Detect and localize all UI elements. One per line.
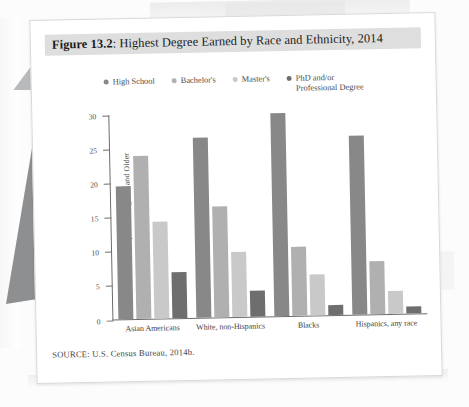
bar-group: White, non-Hispanics — [192, 112, 265, 317]
y-axis-tick-label: 20 — [78, 180, 98, 189]
figure-card: Figure 13.2: Highest Degree Earned by Ra… — [29, 12, 442, 384]
y-axis-tick-label: 5 — [80, 283, 100, 292]
legend-swatch-icon — [287, 76, 292, 81]
bar — [290, 246, 306, 316]
bar-group: Hispanics, any race — [348, 109, 421, 314]
bar-group: Asian Americans — [114, 114, 187, 319]
bar-chart-plot: Percent of Population Age 25 and Older 0… — [76, 109, 425, 321]
x-axis-category-label: White, non-Hispanics — [196, 321, 265, 331]
bar — [171, 272, 187, 318]
legend-swatch-icon — [233, 77, 238, 82]
legend-label: Bachelor's — [181, 75, 216, 86]
bar — [387, 291, 402, 314]
legend-label: Master's — [242, 74, 270, 85]
legend-label-line2: Professional Degree — [296, 83, 364, 93]
y-axis-tick — [106, 320, 113, 321]
y-axis-tick — [105, 252, 112, 253]
figure-number: Figure 13.2 — [52, 36, 113, 51]
legend-item-bachelors: Bachelor's — [172, 75, 216, 86]
bar — [406, 307, 421, 314]
bar — [328, 305, 343, 315]
chart-legend: High School Bachelor's Master's PhD and/… — [104, 72, 364, 98]
figure-title-band: Figure 13.2: Highest Degree Earned by Ra… — [45, 27, 421, 56]
legend-swatch-icon — [104, 80, 109, 85]
legend-swatch-icon — [172, 78, 177, 83]
legend-label-multiline: PhD and/orProfessional Degree — [296, 72, 364, 94]
source-note: SOURCE: U.S. Census Bureau, 2014b. — [52, 347, 195, 360]
bar — [309, 274, 325, 315]
y-axis-tick-label: 0 — [80, 317, 100, 326]
bar-group: Blacks — [270, 111, 343, 316]
y-axis-tick — [104, 218, 111, 219]
y-axis-tick — [104, 183, 111, 184]
bar — [212, 206, 229, 317]
legend-item-masters: Master's — [233, 74, 270, 85]
y-axis-tick-label: 30 — [76, 112, 96, 121]
y-axis-tick-label: 25 — [77, 146, 97, 155]
legend-item-phd: PhD and/orProfessional Degree — [287, 72, 364, 94]
figure-caption: Highest Degree Earned by Race and Ethnic… — [119, 31, 383, 50]
bar — [192, 137, 211, 317]
y-axis-tick — [103, 149, 110, 150]
bars-area: Asian AmericansWhite, non-HispanicsBlack… — [109, 109, 425, 319]
bar — [249, 291, 265, 317]
x-axis-category-label: Hispanics, any race — [356, 318, 418, 328]
y-axis-tick-label: 15 — [78, 214, 98, 223]
x-axis-category-label: Asian Americans — [125, 323, 179, 333]
legend-label-line1: PhD and/or — [296, 73, 335, 83]
bar — [369, 261, 385, 314]
bar — [133, 156, 151, 319]
bar — [152, 221, 169, 319]
bar — [231, 252, 247, 317]
bar — [270, 113, 289, 316]
bar — [348, 136, 367, 315]
y-axis-tick — [106, 286, 113, 287]
y-axis-tick — [102, 115, 109, 116]
x-axis-category-label: Blacks — [298, 320, 320, 329]
legend-item-high-school: High School — [104, 77, 155, 88]
bar — [115, 187, 133, 320]
figure-title-text: Figure 13.2: Highest Degree Earned by Ra… — [52, 31, 383, 53]
legend-label: High School — [113, 77, 155, 88]
y-axis-tick-label: 10 — [79, 248, 99, 257]
